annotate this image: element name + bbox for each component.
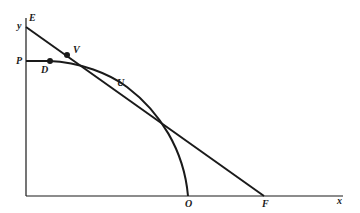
label-u: U (117, 77, 125, 88)
frontier-curve-po (26, 61, 188, 196)
label-p: P (16, 55, 23, 66)
point-v-dot (64, 52, 70, 58)
label-v: V (73, 44, 81, 55)
label-x: x (336, 195, 342, 206)
diagram-svg: E y V P D U O F x (0, 0, 360, 213)
diagram-canvas: E y V P D U O F x (0, 0, 360, 213)
label-o: O (185, 198, 192, 209)
label-y: y (16, 20, 22, 31)
label-d: D (40, 64, 48, 75)
tangent-line-ef (26, 27, 264, 196)
label-e: E (28, 12, 36, 23)
label-f: F (261, 198, 269, 209)
